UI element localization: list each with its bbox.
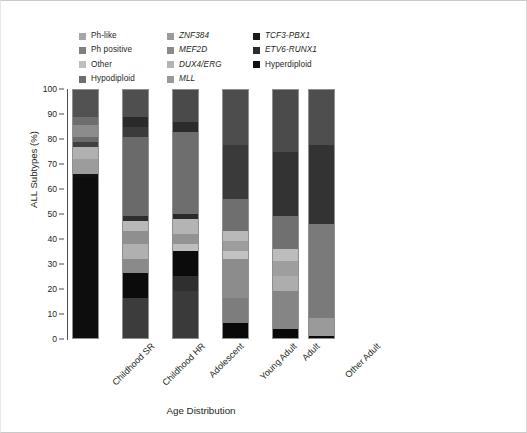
bar-segment-ph-positive[interactable] [309,145,334,224]
bar-segment-znf384[interactable] [173,219,198,234]
legend-item-etv6-runx1: ETV6-RUNX1 [253,46,409,54]
bar-segment-hypodiploid[interactable] [223,231,248,241]
y-tick-label: 0 [52,334,57,344]
legend-label: Hyperdiploid [265,61,312,69]
figure-panel: Ph-likeZNF384TCF3-PBX1Ph positiveMEF2DET… [0,0,527,433]
legend-item-ph-positive: Ph positive [79,46,167,54]
bar-segment-ph-positive[interactable] [73,117,98,124]
chart-legend: Ph-likeZNF384TCF3-PBX1Ph positiveMEF2DET… [79,29,409,87]
bar-segment-tcf3-pbx1[interactable] [73,177,98,338]
legend-label: Other [91,61,112,69]
bar-segment-mef2d[interactable] [223,251,248,258]
legend-label: ETV6-RUNX1 [265,46,317,54]
x-tick-label: Adolescent [207,341,246,380]
stacked-bar[interactable] [222,89,249,339]
legend-item-mll: MLL [167,75,253,83]
bar-segment-other[interactable] [309,224,334,318]
stacked-bar[interactable] [72,89,99,339]
bar-segment-hypodiploid[interactable] [123,137,148,216]
legend-item-other: Other [79,61,167,69]
bar-segment-dux4-erg[interactable] [223,259,248,299]
y-tick-label: 90 [47,109,57,119]
bar-segment-other[interactable] [273,216,298,248]
y-tick-mark [59,289,64,290]
bar-segment-hyperdiploid[interactable] [173,291,198,338]
legend-item-ph-like: Ph-like [79,32,167,40]
legend-swatch-icon [79,76,86,83]
y-tick-label: 70 [47,159,57,169]
legend-swatch-icon [167,61,174,68]
bar-segment-etv6-runx1[interactable] [173,276,198,291]
bar-segment-mef2d[interactable] [273,276,298,291]
bar-segment-mef2d[interactable] [73,147,98,159]
legend-label: MEF2D [179,46,207,54]
legend-swatch-icon [253,33,260,40]
bar-segment-znf384[interactable] [273,261,298,276]
legend-swatch-icon [79,47,86,54]
legend-swatch-icon [79,61,86,68]
bar-segment-hyperdiploid[interactable] [223,323,248,338]
bar-segment-znf384[interactable] [223,241,248,251]
y-tick-mark [59,114,64,115]
plot-area [68,89,336,339]
bar-segment-other[interactable] [123,127,148,137]
legend-swatch-icon [167,76,174,83]
y-tick-label: 20 [47,284,57,294]
legend-item-hyperdiploid: Hyperdiploid [253,61,409,69]
legend-item-tcf3-pbx1: TCF3-PBX1 [253,32,409,40]
bar-segment-ph-positive[interactable] [123,117,148,127]
bar-segment-mll[interactable] [223,298,248,323]
bar-segment-dux4-erg[interactable] [173,244,198,251]
bar-segment-ph-like[interactable] [273,90,298,152]
bar-segment-ph-like[interactable] [73,90,98,117]
y-tick-mark [59,314,64,315]
bar-segment-mef2d[interactable] [173,234,198,244]
x-axis-label: Age Distribution [1,405,401,416]
stacked-bar[interactable] [122,89,149,339]
bar-segment-mll[interactable] [123,244,148,259]
x-tick-label: Adult [300,341,322,363]
x-tick-labels: Childhood SRChildhood HRAdolescentYoung … [68,341,336,411]
bar-segment-ph-like[interactable] [173,90,198,122]
legend-label: TCF3-PBX1 [265,32,310,40]
y-tick-mark [59,239,64,240]
bar-segment-other[interactable] [173,132,198,214]
y-axis-label: ALL Subtypes (%) [28,70,39,270]
y-tick-mark [59,164,64,165]
bar-segment-other[interactable] [223,199,248,231]
bar-segment-mef2d[interactable] [123,221,148,231]
bar-segment-ph-positive[interactable] [173,122,198,132]
y-tick-mark [59,89,64,90]
y-tick-label: 60 [47,184,57,194]
bar-segment-hypodiploid[interactable] [273,249,298,261]
bar-segment-dux4-erg[interactable] [73,159,98,174]
legend-label: DUX4/ERG [179,61,222,69]
bar-segment-dux4-erg[interactable] [273,291,298,329]
y-tick-label: 40 [47,234,57,244]
x-tick-label: Other Adult [343,341,382,380]
bar-segment-hyperdiploid[interactable] [309,336,334,338]
y-tick-mark [59,264,64,265]
stacked-bar[interactable] [308,89,335,339]
bar-segment-mll[interactable] [173,251,198,276]
legend-label: Ph positive [91,46,132,54]
bar-segment-tcf3-pbx1[interactable] [123,259,148,274]
y-tick-mark [59,189,64,190]
bar-segment-ph-positive[interactable] [223,145,248,200]
bar-segment-ph-like[interactable] [223,90,248,145]
bar-segment-etv6-runx1[interactable] [123,273,148,298]
stacked-bar[interactable] [172,89,199,339]
bar-segment-dux4-erg[interactable] [123,231,148,243]
bar-segment-other[interactable] [73,125,98,137]
bar-segment-ph-positive[interactable] [273,152,298,216]
bar-segment-dux4-erg[interactable] [309,318,334,335]
bar-segment-hyperdiploid[interactable] [123,298,148,338]
bar-segment-ph-like[interactable] [123,90,148,117]
legend-item-hypodiploid: Hypodiploid [79,75,167,83]
y-tick-label: 80 [47,134,57,144]
legend-swatch-icon [253,47,260,54]
legend-label: Ph-like [91,32,117,40]
stacked-bar[interactable] [272,89,299,339]
bar-segment-hyperdiploid[interactable] [273,329,298,338]
bar-segment-ph-like[interactable] [309,90,334,145]
